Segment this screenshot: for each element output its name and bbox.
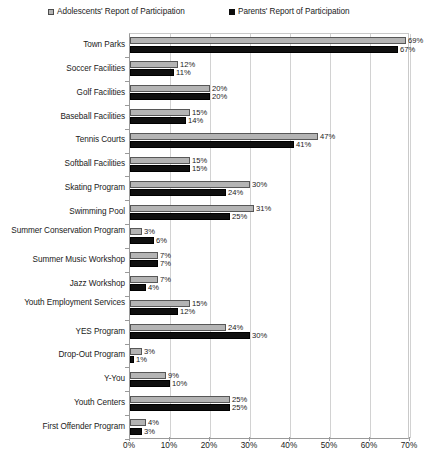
bar-adolescents[interactable] — [130, 324, 226, 331]
chart-rows: Town Parks69%67%Soccer Facilities12%11%G… — [0, 33, 430, 439]
category-label: YES Program — [3, 327, 125, 337]
chart-row: Baseball Facilities15%14% — [0, 105, 430, 129]
chart-row: Youth Centers25%25% — [0, 391, 430, 415]
bar-adolescents[interactable] — [130, 61, 178, 68]
chart-row: Summer Conservation Program3%6% — [0, 224, 430, 248]
x-axis-tick-label: 60% — [361, 441, 377, 451]
bar-parents-value-label: 1% — [136, 355, 147, 364]
category-label: First Offender Program — [3, 422, 125, 432]
bar-parents-value-label: 25% — [232, 212, 247, 221]
x-axis-tick-label: 0% — [123, 441, 135, 451]
chart-row: Y-You9%10% — [0, 367, 430, 391]
bar-parents[interactable] — [130, 93, 210, 100]
bar-parents[interactable] — [130, 308, 178, 315]
category-label: Jazz Workshop — [3, 279, 125, 289]
chart-row: First Offender Program4%3% — [0, 415, 430, 439]
category-label: Tennis Courts — [3, 135, 125, 145]
bar-adolescents[interactable] — [130, 109, 190, 116]
category-label: Baseball Facilities — [3, 112, 125, 122]
chart-row: Skating Program30%24% — [0, 176, 430, 200]
bar-parents[interactable] — [130, 117, 186, 124]
bar-parents[interactable] — [130, 141, 294, 148]
category-label: Summer Music Workshop — [3, 255, 125, 265]
bar-parents[interactable] — [130, 165, 190, 172]
bar-parents-value-label: 67% — [400, 45, 415, 54]
chart-row: Softball Facilities15%15% — [0, 152, 430, 176]
bar-adolescents[interactable] — [130, 419, 146, 426]
x-axis-tick-label: 70% — [401, 441, 417, 451]
bar-parents[interactable] — [130, 213, 230, 220]
category-label: Drop-Out Program — [3, 350, 125, 360]
category-label: Youth Centers — [3, 398, 125, 408]
chart-row: Jazz Workshop7%4% — [0, 272, 430, 296]
bar-adolescents-value-label: 47% — [320, 132, 335, 141]
chart-row: Golf Facilities20%20% — [0, 81, 430, 105]
bar-adolescents[interactable] — [130, 396, 230, 403]
bar-parents[interactable] — [130, 404, 230, 411]
chart-row: Summer Music Workshop7%7% — [0, 248, 430, 272]
x-axis-tick-label: 30% — [241, 441, 257, 451]
bar-parents-value-label: 24% — [228, 188, 243, 197]
bar-parents[interactable] — [130, 189, 226, 196]
chart-row: Swimming Pool31%25% — [0, 200, 430, 224]
bar-parents-value-label: 20% — [212, 92, 227, 101]
bar-adolescents[interactable] — [130, 372, 166, 379]
bar-parents-value-label: 12% — [180, 307, 195, 316]
bar-adolescents-value-label: 24% — [228, 323, 243, 332]
category-label: Summer Conservation Program — [3, 226, 125, 236]
x-axis-tick-label: 20% — [201, 441, 217, 451]
bar-parents[interactable] — [130, 69, 174, 76]
bar-adolescents[interactable] — [130, 300, 190, 307]
bar-parents[interactable] — [130, 428, 142, 435]
bar-parents-value-label: 15% — [192, 164, 207, 173]
x-axis-tick-label: 10% — [161, 441, 177, 451]
bar-adolescents[interactable] — [130, 37, 406, 44]
bar-parents-value-label: 41% — [296, 140, 311, 149]
bar-parents[interactable] — [130, 237, 154, 244]
bar-adolescents[interactable] — [130, 252, 158, 259]
chart-row: Tennis Courts47%41% — [0, 129, 430, 153]
bar-adolescents-value-label: 3% — [144, 227, 155, 236]
x-axis-tick-label: 50% — [321, 441, 337, 451]
category-label: Y-You — [3, 374, 125, 384]
bar-parents-value-label: 6% — [156, 236, 167, 245]
bar-adolescents[interactable] — [130, 181, 250, 188]
bar-parents-value-label: 10% — [172, 379, 187, 388]
bar-parents-value-label: 4% — [148, 283, 159, 292]
bar-parents[interactable] — [130, 332, 250, 339]
bar-adolescents[interactable] — [130, 133, 318, 140]
x-axis-tick-label: 40% — [281, 441, 297, 451]
category-label: Youth Employment Services — [3, 298, 125, 308]
bar-adolescents[interactable] — [130, 157, 190, 164]
bar-adolescents-value-label: 30% — [252, 180, 267, 189]
x-axis: 0%10%20%30%40%50%60%70% — [0, 441, 430, 457]
bar-adolescents-value-label: 7% — [160, 275, 171, 284]
bar-parents[interactable] — [130, 380, 170, 387]
bar-parents[interactable] — [130, 356, 134, 363]
chart-row: YES Program24%30% — [0, 320, 430, 344]
chart-row: Youth Employment Services15%12% — [0, 296, 430, 320]
category-label: Swimming Pool — [3, 207, 125, 217]
category-label: Golf Facilities — [3, 88, 125, 98]
bar-parents-value-label: 7% — [160, 259, 171, 268]
bar-parents[interactable] — [130, 46, 398, 53]
bar-adolescents[interactable] — [130, 348, 142, 355]
category-label: Skating Program — [3, 183, 125, 193]
category-label: Softball Facilities — [3, 159, 125, 169]
bar-parents-value-label: 11% — [176, 68, 191, 77]
bar-parents[interactable] — [130, 260, 158, 267]
bar-adolescents[interactable] — [130, 85, 210, 92]
bar-parents-value-label: 14% — [188, 116, 203, 125]
bar-adolescents[interactable] — [130, 276, 158, 283]
chart-row: Drop-Out Program3%1% — [0, 343, 430, 367]
category-label: Town Parks — [3, 40, 125, 50]
category-label: Soccer Facilities — [3, 64, 125, 74]
bar-adolescents[interactable] — [130, 205, 254, 212]
bar-parents-value-label: 30% — [252, 331, 267, 340]
chart-row: Town Parks69%67% — [0, 33, 430, 57]
bar-adolescents-value-label: 31% — [256, 204, 271, 213]
grouped-bar-chart: Town Parks69%67%Soccer Facilities12%11%G… — [0, 0, 430, 473]
bar-adolescents[interactable] — [130, 228, 142, 235]
bar-parents-value-label: 3% — [144, 427, 155, 436]
bar-parents[interactable] — [130, 284, 146, 291]
